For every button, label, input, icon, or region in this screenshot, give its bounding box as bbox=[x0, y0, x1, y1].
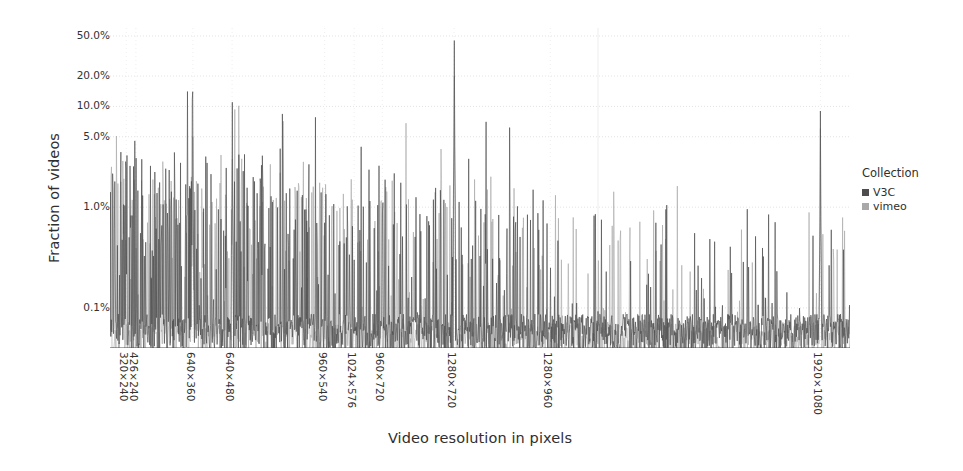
x-tick-label: 640×360 bbox=[185, 352, 197, 402]
chart-figure: Fraction of videos 50.0%20.0%10.0%5.0%1.… bbox=[0, 0, 963, 471]
legend-entry[interactable]: V3C bbox=[862, 186, 962, 199]
legend-title: Collection bbox=[862, 166, 962, 180]
x-tick-label: 1920×1080 bbox=[812, 352, 824, 415]
legend-swatch-icon bbox=[862, 189, 869, 196]
legend-entry[interactable]: vimeo bbox=[862, 200, 962, 213]
legend-entries: V3Cvimeo bbox=[862, 186, 962, 213]
x-tick-label: 640×480 bbox=[224, 352, 236, 402]
x-tick-label: 1024×576 bbox=[346, 352, 358, 408]
x-tick-label: 1280×960 bbox=[542, 352, 554, 408]
x-tick-label: 1280×720 bbox=[446, 352, 458, 408]
legend-swatch-icon bbox=[862, 203, 869, 210]
legend-label: V3C bbox=[873, 186, 895, 199]
x-axis-tick-labels: 320×240426×240640×360640×480960×5401024×… bbox=[0, 0, 963, 471]
x-tick-label: 960×720 bbox=[374, 352, 386, 402]
x-axis-title: Video resolution in pixels bbox=[110, 430, 850, 446]
legend-label: vimeo bbox=[873, 200, 907, 213]
x-tick-label: 426×240 bbox=[128, 352, 140, 402]
x-tick-label: 960×540 bbox=[317, 352, 329, 402]
legend: Collection V3Cvimeo bbox=[862, 166, 962, 214]
